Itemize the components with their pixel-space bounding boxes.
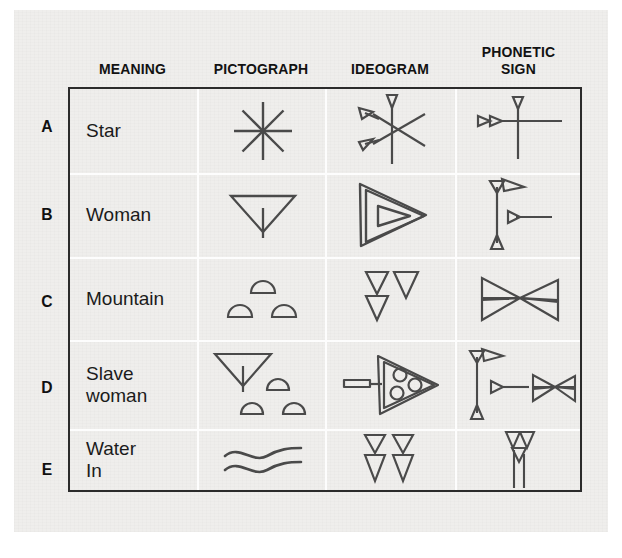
- figure-page: MEANING PICTOGRAPH IDEOGRAM PHONETIC SIG…: [0, 0, 622, 558]
- header-phonetic-line2: SIGN: [461, 60, 575, 77]
- header-ideogram: IDEOGRAM: [332, 60, 449, 77]
- row-letter-b: B: [37, 205, 57, 225]
- row-letter-d: D: [37, 378, 57, 398]
- four-wedges-two-columns-icon: [361, 431, 423, 489]
- meaning-cell-d: Slave woman: [70, 340, 199, 429]
- meaning-text-a: Star: [86, 120, 121, 142]
- column-headers: MEANING PICTOGRAPH IDEOGRAM PHONETIC SIG…: [0, 38, 622, 84]
- meaning-cell-a: Star: [70, 89, 199, 173]
- ideogram-cell-d: [327, 340, 457, 429]
- meaning-text-e-line1: Water: [86, 438, 136, 460]
- pictograph-cell-c: [199, 257, 327, 340]
- meaning-text-e: Water In: [86, 438, 136, 482]
- down-triangle-with-stroke-icon: [225, 188, 301, 242]
- triangle-and-three-domes-icon: [211, 348, 315, 422]
- three-domes-icon: [220, 271, 306, 327]
- pictograph-cell-e: [199, 429, 327, 490]
- three-down-wedges-icon: [360, 266, 424, 332]
- nested-right-triangle-icon: [352, 178, 432, 252]
- double-wavy-line-icon: [219, 440, 307, 480]
- phonetic-cell-b: [457, 173, 582, 257]
- meaning-text-d: Slave woman: [86, 363, 147, 407]
- phonetic-cell-c: [457, 257, 582, 340]
- phonetic-cell-e: [457, 429, 582, 490]
- wedge-star-six-ray-icon: [349, 92, 435, 170]
- cross-with-two-wedges-icon: [472, 95, 568, 167]
- phonetic-cell-d: [457, 340, 582, 429]
- meaning-cell-c: Mountain: [70, 257, 199, 340]
- vertical-stroke-with-wedges-icon: [478, 177, 562, 253]
- header-meaning: MEANING: [74, 60, 190, 77]
- pictograph-cell-d: [199, 340, 327, 429]
- ideogram-cell-c: [327, 257, 457, 340]
- meaning-text-d-line1: Slave: [86, 363, 147, 385]
- ideogram-cell-a: [327, 89, 457, 173]
- header-phonetic-line1: PHONETIC: [461, 43, 575, 60]
- meaning-text-d-line2: woman: [86, 385, 147, 407]
- row-letter-a: A: [37, 117, 57, 137]
- bowtie-wedges-icon: [476, 270, 564, 328]
- woman-plus-mountain-signs-icon: [463, 345, 577, 425]
- pictograph-cell-b: [199, 173, 327, 257]
- arrow-triangle-three-circles-icon: [340, 350, 444, 420]
- meaning-cell-b: Woman: [70, 173, 199, 257]
- two-wedges-two-verticals-icon: [498, 428, 542, 492]
- meaning-text-b: Woman: [86, 204, 151, 226]
- meaning-text-c: Mountain: [86, 288, 164, 310]
- meaning-text-e-line2: In: [86, 460, 136, 482]
- header-pictograph: PICTOGRAPH: [203, 60, 318, 77]
- eight-pointed-asterisk-icon: [228, 96, 298, 166]
- meaning-cell-e: Water In: [70, 429, 199, 490]
- cuneiform-table: Star: [68, 87, 582, 492]
- row-letter-e: E: [37, 460, 57, 480]
- phonetic-cell-a: [457, 89, 582, 173]
- ideogram-cell-e: [327, 429, 457, 490]
- header-phonetic-sign: PHONETIC SIGN: [461, 43, 575, 77]
- ideogram-cell-b: [327, 173, 457, 257]
- row-letter-c: C: [37, 292, 57, 312]
- pictograph-cell-a: [199, 89, 327, 173]
